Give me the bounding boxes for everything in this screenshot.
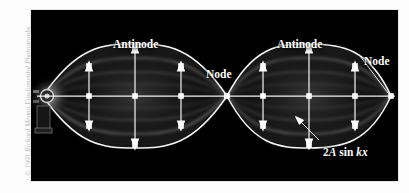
label-node-right: Node — [364, 55, 390, 67]
label-antinode-right: Antinode — [277, 38, 322, 50]
photograph-plate: Antinode Antinode Node Node 2A sin kx — [31, 10, 398, 181]
string-driver — [31, 76, 71, 133]
label-antinode-left: Antinode — [113, 38, 158, 50]
label-node-center: Node — [206, 68, 232, 80]
amplitude-sin: sin — [336, 146, 356, 158]
standing-wave-figure: © 1991 Richard Megna Fundamental Photogr… — [0, 0, 409, 193]
label-amplitude-equation: 2A sin kx — [323, 146, 368, 158]
amplitude-symbol-x: x — [362, 146, 368, 158]
